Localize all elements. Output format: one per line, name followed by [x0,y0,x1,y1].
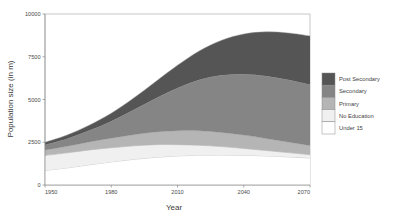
legend-swatch-secondary [322,85,335,97]
legend-swatch-primary [322,97,335,109]
x-tick-label: 1950 [45,189,57,195]
y-tick-label: 7500 [28,54,40,60]
legend-label-no-education: No Education [339,113,374,119]
y-axis-title: Population size (in m) [6,60,15,137]
x-tick-label: 1980 [105,189,117,195]
x-tick-label: 2010 [171,189,183,195]
x-axis-title: Year [166,203,183,212]
x-tick-label: 2040 [238,189,250,195]
x-tick-label: 2070 [298,189,310,195]
legend-swatch-under-15 [322,122,335,134]
legend-label-post-secondary: Post Secondary [339,76,380,82]
y-tick-label: 10000 [25,11,41,17]
legend-label-under-15: Under 15 [339,125,363,131]
y-tick-label: 5000 [28,97,40,103]
legend-label-secondary: Secondary [339,88,367,94]
y-tick-label: 2500 [28,139,40,145]
legend-label-primary: Primary [339,101,359,107]
chart-figure: 025005000750010000 19501980201020402070 … [0,0,402,214]
legend-swatch-no-education [322,110,335,122]
stacked-area-chart: 025005000750010000 19501980201020402070 … [0,0,402,214]
y-tick-label: 0 [37,182,40,188]
legend-swatch-post-secondary [322,73,335,85]
